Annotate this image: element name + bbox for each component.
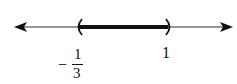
number-line (0, 0, 237, 84)
minus-sign: − (58, 56, 67, 74)
left-endpoint-label: − 1 3 (58, 46, 88, 82)
right-endpoint-label: 1 (162, 44, 170, 62)
fraction-numerator: 1 (74, 46, 82, 63)
fraction-denominator: 3 (73, 65, 81, 82)
